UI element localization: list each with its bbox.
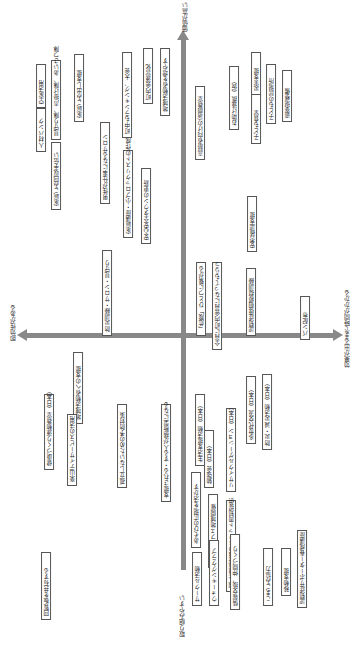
item-box: 多世代交流（日本） <box>246 376 256 444</box>
item-box: 勉強会（日本） <box>204 430 214 488</box>
axis-label-left: 即効性がある <box>8 305 17 341</box>
item-box: 町内会運営化 <box>143 48 153 104</box>
item-box: ウォーキングクラブ <box>209 540 219 606</box>
item-box: 楽山デイサービスの活用 <box>67 414 77 486</box>
item-box: 安心安全タウンの更新 <box>141 168 151 244</box>
item-box: 空家活用 <box>36 64 46 108</box>
item-box: 家庭ごみ出し支援 <box>74 54 84 122</box>
item-box: 防災訓練・サロン・見守り <box>102 250 112 336</box>
item-box: 認知症サポーター養成講座 <box>297 530 307 608</box>
item-box: 情報交換、仲間づくり <box>230 534 240 610</box>
vertical-axis <box>181 40 186 570</box>
item-box: パン配布 <box>300 296 310 340</box>
axis-label-right: 効果が出るまで時間がかかる <box>342 290 351 368</box>
item-box: 回覧板を共有する <box>41 552 51 620</box>
item-box: 支援される・する人が横断型になる <box>161 404 171 502</box>
item-box: お助け連携（仮） <box>229 66 239 130</box>
item-box: 全員に町内会員になってもらう <box>212 262 222 350</box>
item-box: 「危険」ひとつに繋がる <box>196 262 206 336</box>
item-box: 子どもの居場所 <box>266 64 276 124</box>
item-box: 高齢者向けの演劇教室 <box>195 86 205 160</box>
item-box: 健康づくり運動教室（日本） <box>44 394 54 470</box>
item-box: サークル活動 <box>192 552 202 606</box>
item-box: リサイクルゲーション（日本） <box>226 408 236 492</box>
item-box: 地域活動者を増やす <box>160 48 170 116</box>
item-box: 人材バンク <box>36 108 46 152</box>
item-box: 孤立しないための予防対策 <box>117 404 127 488</box>
item-box: 安否確認支援 <box>247 196 257 252</box>
item-box: 男性が仕事になるサロン <box>100 122 110 204</box>
axis-label-bottom: 取り組みやすい <box>177 595 186 637</box>
item-box: 移動支援 <box>281 548 291 596</box>
item-box: こまごみ協力 <box>263 548 273 606</box>
item-box: 災害支援 <box>251 52 261 96</box>
item-box: 見守り隊、声掛け隊、あいさつ隊 <box>51 60 61 140</box>
item-box: 子ども食堂 <box>251 94 261 144</box>
item-box: 家庭ごみ回収手伝い <box>51 142 61 210</box>
item-box: 防災・減災活動（日本） <box>262 374 272 450</box>
item-box: 町中もランキング、大会 <box>122 52 132 138</box>
horizontal-axis <box>25 333 335 338</box>
item-box: 家庭講座・小ブロックリストの作成 <box>123 150 133 238</box>
item-box: あそびの広場を活かす <box>191 472 201 548</box>
arrow-left-icon <box>17 329 27 341</box>
item-box: 遊楽場整備 <box>282 70 292 122</box>
axis-label-top: 価値が高い <box>180 2 189 32</box>
item-box: 認知症徘徊模擬訓練 <box>246 268 256 336</box>
